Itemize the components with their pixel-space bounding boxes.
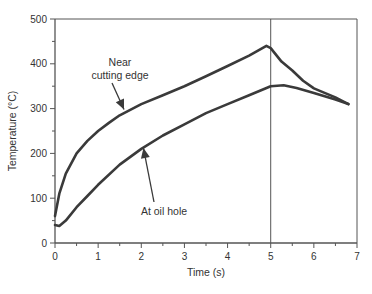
x-tick-label: 4	[225, 251, 231, 262]
annotation-at-oil-hole: At oil hole	[141, 205, 187, 217]
plot-frame	[55, 19, 357, 243]
y-tick-label: 100	[30, 193, 47, 204]
annotation-near-cutting-edge-line1: Near	[109, 56, 132, 68]
y-tick-label: 300	[30, 103, 47, 114]
x-tick-label: 3	[182, 251, 188, 262]
y-tick-label: 400	[30, 58, 47, 69]
x-tick-label: 7	[354, 251, 360, 262]
x-tick-label: 2	[139, 251, 145, 262]
x-tick-label: 0	[52, 251, 58, 262]
curve-at-oil-hole	[55, 85, 348, 226]
y-tick-label: 0	[41, 238, 47, 249]
x-tick-label: 1	[95, 251, 101, 262]
x-axis-label: Time (s)	[187, 266, 225, 278]
annotation-near-cutting-edge-line2: cutting edge	[91, 69, 148, 81]
y-tick-label: 500	[30, 14, 47, 25]
x-tick-label: 6	[311, 251, 317, 262]
axis-ticks: 012345670100200300400500	[30, 14, 360, 263]
y-tick-label: 200	[30, 148, 47, 159]
x-tick-label: 5	[268, 251, 274, 262]
y-axis-label: Temperature (°C)	[6, 91, 18, 172]
temperature-chart: 012345670100200300400500 Time (s) Temper…	[0, 0, 372, 294]
